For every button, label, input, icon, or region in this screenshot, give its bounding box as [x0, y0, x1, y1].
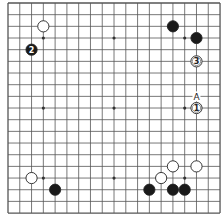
white-stone [38, 21, 49, 32]
star-point [183, 36, 186, 39]
black-stone [191, 32, 202, 43]
star-point [112, 176, 115, 179]
black-stone [167, 184, 178, 195]
white-stone: 1 [191, 102, 202, 113]
star-point [183, 176, 186, 179]
white-stone [26, 172, 37, 183]
star-point [42, 176, 45, 179]
star-point [112, 36, 115, 39]
marker-label: A [193, 92, 200, 102]
board-markers: A [192, 91, 200, 102]
star-point [42, 106, 45, 109]
black-stone [144, 184, 155, 195]
black-stone [167, 21, 178, 32]
black-stone: 2 [26, 44, 37, 55]
black-stone [50, 184, 61, 195]
star-point [183, 106, 186, 109]
white-stone: 3 [191, 56, 202, 67]
white-stone [167, 161, 178, 172]
stone-move-number: 1 [194, 104, 200, 113]
white-stone [156, 172, 167, 183]
white-stone [191, 161, 202, 172]
go-board: A 231 [0, 0, 224, 222]
stone-move-number: 2 [29, 46, 35, 55]
stone-move-number: 3 [194, 57, 200, 66]
black-stone [179, 184, 190, 195]
star-point [42, 36, 45, 39]
star-point [112, 106, 115, 109]
